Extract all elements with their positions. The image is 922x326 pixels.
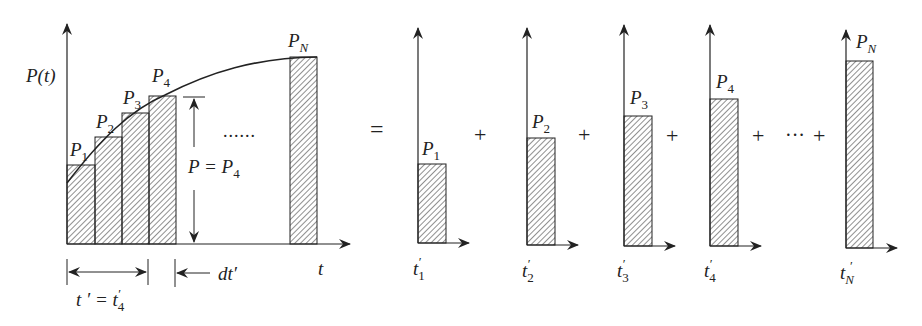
label-p3: P3: [122, 87, 141, 112]
pulse-2-label: P2: [531, 111, 550, 136]
plus-sign: +: [578, 122, 590, 147]
t-prime-annotation: t ′ = t4′: [76, 286, 125, 314]
ellipsis: ......: [223, 121, 256, 141]
continuation-dots: ···: [785, 124, 805, 146]
left-panel: P(t) t P1 P2 P3 P4 PN ...... P = P4 t ′ …: [25, 24, 350, 314]
pulse-panel-3: P3 t3′: [617, 25, 675, 285]
y-axis-label: P(t): [25, 65, 56, 87]
pulse-n-t-label: tN′: [840, 258, 855, 287]
pulse-4-bar: [710, 99, 738, 246]
height-annotation: P = P4: [187, 156, 240, 181]
pulse-panel-4: P4 t4′: [704, 25, 761, 285]
pulse-1-label: P1: [421, 138, 440, 163]
pulse-panel-1: P1 t1′: [413, 28, 469, 283]
pulse-3-bar: [624, 116, 652, 246]
plus-sign: +: [666, 123, 678, 148]
plus-sign: +: [813, 123, 825, 148]
pulse-decomposition-diagram: P(t) t P1 P2 P3 P4 PN ...... P = P4 t ′ …: [0, 0, 922, 326]
bar-p2: [95, 137, 122, 244]
pulse-n-bar: [846, 61, 873, 248]
bar-pn: [290, 57, 317, 244]
pulse-1-t-label: t1′: [413, 254, 425, 283]
label-p4: P4: [151, 65, 171, 90]
pulse-panel-2: P2 t2′: [522, 28, 578, 285]
pulse-n-label: PN: [855, 31, 878, 56]
equals-sign: =: [370, 116, 384, 142]
pulse-panel-n: PN tN′: [840, 30, 897, 287]
dt-annotation: dt′: [218, 263, 238, 284]
label-p2: P2: [95, 111, 114, 136]
pulse-3-label: P3: [629, 87, 648, 112]
pulse-3-t-label: t3′: [617, 256, 629, 285]
bar-p3: [122, 113, 149, 244]
label-p1: P1: [69, 139, 88, 164]
pulse-2-t-label: t2′: [522, 256, 534, 285]
plus-sign: +: [474, 122, 486, 147]
bar-p4: [149, 96, 176, 244]
pulse-1-bar: [418, 164, 446, 243]
pulse-4-label: P4: [715, 71, 735, 96]
label-pn: PN: [287, 30, 310, 55]
x-axis-label: t: [318, 258, 324, 279]
plus-sign: +: [752, 123, 764, 148]
pulse-4-t-label: t4′: [704, 256, 716, 285]
pulse-2-bar: [527, 138, 555, 245]
